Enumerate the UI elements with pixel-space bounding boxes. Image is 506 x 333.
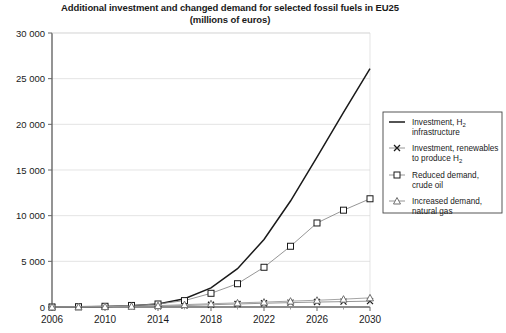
y-tick-label: 15 000 (16, 165, 45, 176)
legend-label-line1: Investment, H2 (412, 118, 467, 128)
legend-label-line2: natural gas (412, 207, 453, 216)
x-tick-label: 2030 (359, 314, 382, 325)
series-3 (49, 196, 373, 310)
legend-label-line2: infrastructure (412, 128, 460, 137)
series-layer (49, 69, 374, 310)
legend-label-line1: Increased demand, (412, 197, 482, 206)
chart-legend: Investment, H2infrastructureInvestment, … (383, 112, 502, 216)
x-tick-label: 2010 (94, 314, 117, 325)
x-tick-label: 2006 (41, 314, 64, 325)
x-axis-tick-labels: 2006201020142018202220262030 (41, 314, 382, 325)
legend-label-line1: Reduced demand, (412, 171, 479, 180)
legend-label-line1: Investment, renewables (412, 144, 498, 153)
y-tick-label: 0 (40, 302, 45, 313)
y-axis-tick-labels: 05 00010 00015 00020 00025 00030 000 (16, 28, 45, 313)
y-tick-label: 30 000 (16, 28, 45, 39)
x-tick-label: 2022 (253, 314, 276, 325)
x-tick-label: 2026 (306, 314, 329, 325)
series-1 (52, 69, 370, 307)
y-tick-label: 10 000 (16, 210, 45, 221)
legend-label-line2: crude oil (412, 181, 443, 190)
legend-label-line2: to produce H2 (412, 154, 463, 164)
y-tick-label: 25 000 (16, 73, 45, 84)
x-tick-label: 2014 (147, 314, 170, 325)
y-tick-label: 5 000 (21, 256, 45, 267)
x-tick-label: 2018 (200, 314, 223, 325)
chart-container: Additional investment and changed demand… (0, 0, 506, 333)
axes-layer (48, 33, 370, 311)
chart-svg: 05 00010 00015 00020 00025 00030 000 200… (0, 0, 506, 333)
y-tick-label: 20 000 (16, 119, 45, 130)
